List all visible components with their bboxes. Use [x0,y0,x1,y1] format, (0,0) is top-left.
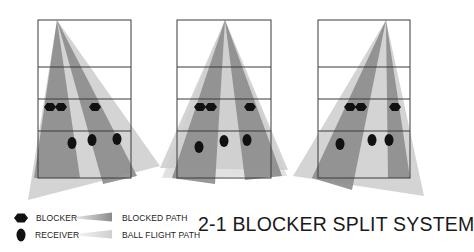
legend-blocked-path-label: BLOCKED PATH [122,213,188,223]
legend-blocker-icon [14,214,28,223]
receiver-icon [220,135,229,147]
diagram-title: 2-1 BLOCKER SPLIT SYSTEM [198,213,474,236]
legend-blocker-label: BLOCKER [36,213,77,223]
receiver-icon [368,134,377,146]
receiver-icon [88,134,97,146]
legend-ball-flight-swatch [75,230,112,239]
panel-middle-attack [160,20,288,184]
receiver-icon [195,141,204,153]
legend-receiver-icon [17,229,26,242]
legend-blocked-path-swatch [75,213,112,222]
receiver-icon [243,134,252,146]
legend-ball-flight-path-label: BALL FLIGHT PATH [122,230,200,240]
panel-left-attack [28,20,160,200]
panel-right-attack [293,20,424,196]
legend-receiver-label: RECEIVER [35,230,79,240]
receiver-icon [385,134,394,146]
receiver-icon [113,133,122,145]
receiver-icon [68,137,77,149]
receiver-icon [336,138,345,150]
